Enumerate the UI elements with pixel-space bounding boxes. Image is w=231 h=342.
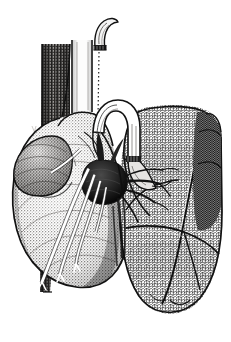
vessel-ligature-band <box>126 156 141 162</box>
anatomy-illustration <box>0 0 231 342</box>
anatomical-figure <box>0 0 231 342</box>
